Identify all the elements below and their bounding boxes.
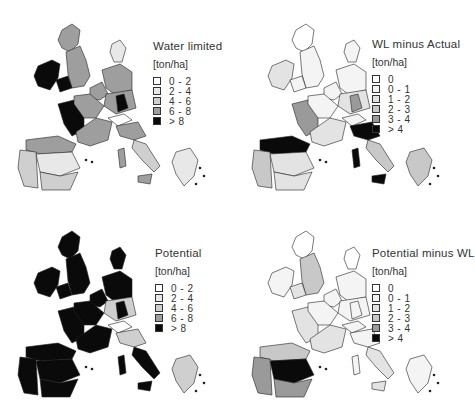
legend-potential-minus-wl: Potential minus WL [ton/ha] 00 - 11 - 22…	[372, 247, 475, 343]
legend-item: 3 - 4	[372, 323, 475, 333]
map-panel-potential-minus-wl: Potential minus WL [ton/ha] 00 - 11 - 22…	[234, 207, 468, 414]
legend-swatch	[155, 314, 163, 322]
legend-label: > 4	[388, 333, 404, 344]
legend-swatch	[372, 294, 380, 302]
legend-item: 3 - 4	[372, 114, 460, 124]
legend-unit: [ton/ha]	[372, 265, 475, 277]
region-italy-s	[132, 140, 160, 172]
island-marker	[325, 368, 328, 371]
region-ireland	[268, 267, 294, 297]
region-spain-n	[26, 343, 76, 361]
region-denmark	[110, 40, 126, 62]
region-denmark	[344, 40, 360, 62]
legend-swatch	[153, 87, 161, 95]
region-ireland	[268, 60, 294, 90]
legend-title: Water limited	[153, 40, 222, 52]
region-greece	[172, 355, 198, 393]
legend-water-limited: Water limited [ton/ha] 0 - 22 - 44 - 66 …	[153, 40, 222, 126]
legend-swatch	[155, 294, 163, 302]
legend-item: 2 - 4	[155, 293, 202, 303]
legend-item: 4 - 6	[155, 303, 202, 313]
region-germany-n	[102, 64, 132, 94]
legend-item: 1 - 2	[372, 303, 475, 313]
region-greece	[172, 148, 198, 186]
island-marker	[91, 161, 94, 164]
island-marker	[433, 167, 436, 170]
legend-swatch	[372, 284, 380, 292]
legend-swatch	[372, 95, 380, 103]
legend-item: > 8	[155, 323, 202, 333]
region-sicily	[372, 381, 386, 391]
region-greece	[406, 355, 432, 393]
legend-item: 4 - 6	[153, 96, 222, 106]
region-germany-n	[102, 271, 132, 301]
legend-title: Potential	[155, 247, 202, 259]
legend-item: 1 - 2	[372, 94, 460, 104]
region-sardinia	[352, 148, 360, 168]
island-marker	[199, 167, 202, 170]
region-sicily	[138, 381, 152, 391]
island-marker	[319, 159, 322, 162]
legend-item: > 8	[153, 116, 222, 126]
island-marker	[195, 183, 198, 186]
legend-wl-minus-actual: WL minus Actual [ton/ha] 00 - 11 - 22 - …	[372, 38, 460, 134]
legend-rows: 0 - 22 - 44 - 66 - 8> 8	[153, 76, 222, 126]
region-spain-n	[260, 136, 310, 154]
island-marker	[91, 368, 94, 371]
legend-swatch	[153, 107, 161, 115]
legend-title: WL minus Actual	[372, 38, 460, 50]
legend-item: 0	[372, 74, 460, 84]
map-panel-wl-minus-actual: WL minus Actual [ton/ha] 00 - 11 - 22 - …	[234, 0, 468, 207]
region-denmark	[110, 247, 126, 269]
map-panel-water-limited: Water limited [ton/ha] 0 - 22 - 44 - 66 …	[0, 0, 234, 207]
island-marker	[433, 374, 436, 377]
legend-swatch	[372, 324, 380, 332]
region-sardinia	[118, 355, 126, 375]
legend-title: Potential minus WL	[372, 247, 475, 259]
island-marker	[195, 390, 198, 393]
region-spain-n	[26, 136, 76, 154]
legend-swatch	[155, 304, 163, 312]
region-sicily	[138, 174, 152, 184]
island-marker	[437, 175, 440, 178]
region-spain-n	[260, 343, 310, 361]
legend-unit: [ton/ha]	[153, 58, 222, 70]
region-sardinia	[118, 148, 126, 168]
region-germany-n	[336, 271, 366, 301]
legend-rows: 0 - 22 - 44 - 66 - 8> 8	[155, 283, 202, 333]
legend-swatch	[372, 75, 380, 83]
legend-swatch	[372, 125, 380, 133]
legend-item: 6 - 8	[155, 313, 202, 323]
legend-label: > 8	[171, 323, 187, 334]
region-portugal	[18, 357, 38, 395]
island-marker	[429, 390, 432, 393]
legend-label: > 4	[388, 124, 404, 135]
island-marker	[429, 183, 432, 186]
legend-item: 2 - 4	[153, 86, 222, 96]
island-marker	[85, 159, 88, 162]
legend-swatch	[153, 97, 161, 105]
legend-swatch	[372, 115, 380, 123]
legend-swatch	[372, 334, 380, 342]
legend-swatch	[372, 304, 380, 312]
legend-unit: [ton/ha]	[155, 265, 202, 277]
region-portugal	[252, 357, 272, 395]
island-marker	[203, 382, 206, 385]
region-italy-s	[132, 347, 160, 379]
legend-item: 0 - 2	[155, 283, 202, 293]
legend-swatch	[153, 117, 161, 125]
region-sicily	[372, 174, 386, 184]
legend-swatch	[153, 77, 161, 85]
region-sardinia	[352, 355, 360, 375]
legend-swatch	[372, 85, 380, 93]
legend-item: 0 - 1	[372, 293, 475, 303]
legend-rows: 00 - 11 - 22 - 33 - 4> 4	[372, 283, 475, 343]
legend-item: 0	[372, 283, 475, 293]
region-portugal	[252, 150, 272, 188]
island-marker	[85, 366, 88, 369]
legend-item: > 4	[372, 124, 460, 134]
legend-swatch	[372, 314, 380, 322]
region-italy-s	[366, 347, 394, 379]
legend-rows: 00 - 11 - 22 - 33 - 4> 4	[372, 74, 460, 134]
legend-item: > 4	[372, 333, 475, 343]
